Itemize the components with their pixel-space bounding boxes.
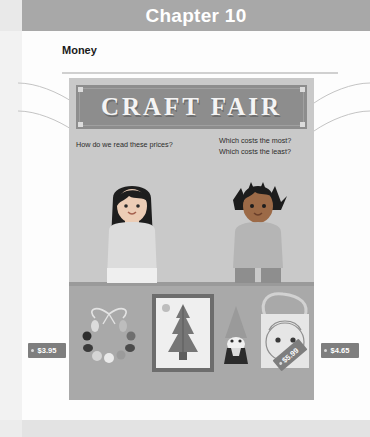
question-right-line1: Which costs the most? — [219, 136, 314, 147]
price-tag-tote-label: $4.65 — [331, 346, 350, 355]
chapter-title: Chapter 10 — [145, 5, 246, 27]
price-tag-necklace[interactable]: $3.95 — [28, 343, 66, 358]
item-beaded-necklace — [73, 298, 145, 370]
tag-hole-icon — [278, 361, 282, 365]
craft-fair-banner: CRAFT FAIR — [76, 85, 307, 129]
illustration-panel: CRAFT FAIR How do we read these prices? … — [69, 78, 314, 400]
question-right-line2: Which costs the least? — [219, 147, 314, 158]
price-tag-tote[interactable]: $4.65 — [321, 343, 359, 358]
banner-text: CRAFT FAIR — [101, 93, 282, 121]
banner-pin-icon — [78, 122, 83, 127]
section-heading: Money — [62, 44, 97, 56]
page-curl-arc-top — [18, 82, 74, 104]
banner-pin-icon — [78, 87, 83, 92]
banner-pin-icon — [300, 87, 305, 92]
page-curl-arc-right-top — [314, 82, 370, 104]
page-curl-arc-bottom — [18, 110, 74, 132]
footer-band — [22, 420, 370, 437]
page-curl-arc-right-bottom — [314, 110, 370, 132]
character-girl — [95, 178, 169, 283]
page-gutter-strip — [0, 0, 22, 437]
footer-gutter — [0, 420, 22, 437]
section-divider-rule — [62, 72, 338, 74]
price-tag-necklace-label: $3.95 — [38, 346, 57, 355]
textbook-page: Chapter 10 Money CRAFT FAIR How do we re… — [0, 0, 370, 437]
question-right: Which costs the most? Which costs the le… — [219, 136, 314, 158]
character-boy — [221, 176, 295, 283]
page-gutter-strip-top — [0, 0, 22, 31]
item-framed-tree-picture — [152, 294, 214, 372]
tag-hole-icon — [31, 349, 34, 352]
item-gnome-figurine — [221, 306, 251, 364]
chapter-header-band: Chapter 10 — [22, 0, 370, 31]
tag-hole-icon — [324, 349, 327, 352]
banner-pin-icon — [300, 122, 305, 127]
question-left: How do we read these prices? — [76, 140, 192, 150]
